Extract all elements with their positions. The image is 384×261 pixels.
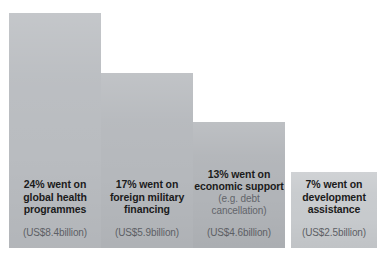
bar-4-title-line2: development	[302, 191, 366, 203]
bar-foreign-military-financing: 17% went on foreign military financing (…	[101, 73, 193, 248]
staircase-bar-chart: 24% went on global health programmes (US…	[0, 0, 384, 261]
bar-1-title-line2: global health	[23, 191, 86, 203]
bar-4-amount: (US$2.5billion)	[291, 227, 377, 239]
bar-3-title-line2: economic support	[194, 180, 283, 192]
bar-3-title-line1: 13% went on	[208, 168, 271, 180]
bar-1-label-block: 24% went on global health programmes (US…	[9, 178, 101, 239]
bar-4-title-line1: 7% went on	[306, 178, 363, 190]
bar-4-title-line3: assistance	[308, 203, 361, 215]
bar-3-title: 13% went on economic support	[193, 168, 285, 193]
bar-2-title-line2: foreign military	[110, 191, 184, 203]
bar-2-amount: (US$5.9billion)	[101, 227, 193, 239]
bar-4-title: 7% went on development assistance	[291, 178, 377, 216]
bar-2-title: 17% went on foreign military financing	[101, 178, 193, 216]
bar-1-amount: (US$8.4billion)	[9, 227, 101, 239]
bar-1-title-line3: programmes	[24, 203, 87, 215]
bar-development-assistance: 7% went on development assistance (US$2.…	[291, 172, 377, 248]
bar-3-note: (e.g. debt cancellation)	[193, 193, 285, 217]
bar-3-note-line2: cancellation)	[212, 205, 267, 216]
bar-economic-support: 13% went on economic support (e.g. debt …	[193, 122, 285, 248]
bar-1-title: 24% went on global health programmes	[9, 178, 101, 216]
bar-3-label-block: 13% went on economic support (e.g. debt …	[193, 168, 285, 239]
bar-2-title-line1: 17% went on	[116, 178, 179, 190]
bar-4-label-block: 7% went on development assistance (US$2.…	[291, 178, 377, 239]
bar-global-health-programmes: 24% went on global health programmes (US…	[9, 13, 101, 248]
bar-2-title-line3: financing	[124, 203, 170, 215]
bar-3-amount: (US$4.6billion)	[193, 227, 285, 239]
bar-2-label-block: 17% went on foreign military financing (…	[101, 178, 193, 239]
bar-3-note-line1: (e.g. debt	[218, 193, 259, 204]
bar-1-title-line1: 24% went on	[24, 178, 87, 190]
